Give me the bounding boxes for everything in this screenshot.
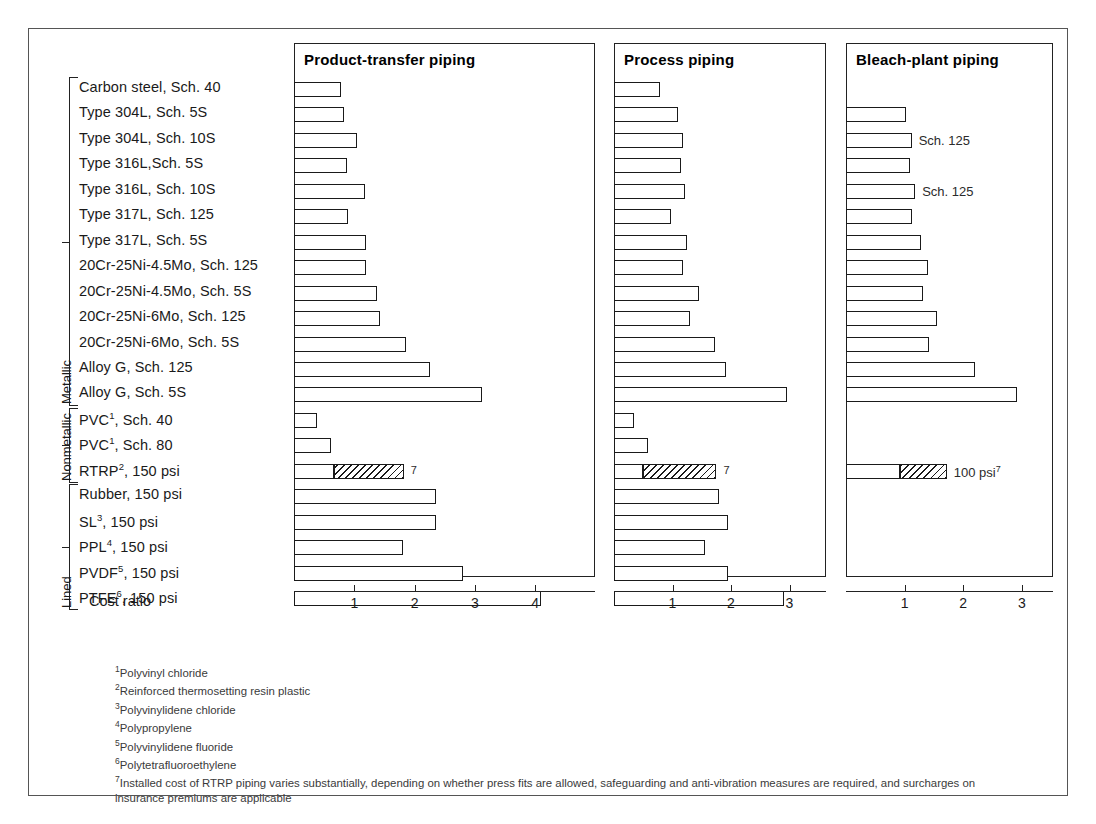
axis-tick	[415, 585, 416, 591]
axis-tick	[963, 585, 964, 591]
row-label: Alloy G, Sch. 125	[79, 359, 193, 375]
footnote: 1Polyvinyl chloride	[115, 662, 1015, 680]
bar	[846, 362, 975, 377]
bar	[294, 362, 430, 377]
row-label: Type 316L,Sch. 5S	[79, 155, 203, 171]
row-label: SL3, 150 psi	[79, 512, 158, 530]
row-label: Type 304L, Sch. 5S	[79, 104, 207, 120]
bar	[614, 133, 683, 148]
bar	[294, 158, 347, 173]
bar	[846, 337, 929, 352]
bar	[294, 260, 366, 275]
bar	[294, 209, 348, 224]
group-label-lined: Lined	[59, 576, 74, 608]
bar	[614, 235, 687, 250]
bar	[614, 260, 683, 275]
bar	[614, 591, 784, 606]
group-bracket-tick	[62, 242, 69, 243]
bar	[294, 82, 341, 97]
bar	[614, 337, 715, 352]
bar	[846, 311, 937, 326]
row-label: 20Cr-25Ni-4.5Mo, Sch. 125	[79, 257, 258, 273]
row-label: PVC1, Sch. 40	[79, 410, 173, 428]
bar	[614, 387, 787, 402]
bar	[614, 566, 728, 581]
bar	[294, 133, 357, 148]
row-label: PVDF5, 150 psi	[79, 563, 179, 581]
bar	[614, 362, 726, 377]
bar	[294, 184, 365, 199]
row-label: Alloy G, Sch. 5S	[79, 384, 186, 400]
footnote: 3Polyvinylidene chloride	[115, 699, 1015, 717]
axis-tick-label: 2	[959, 595, 967, 611]
bar	[846, 184, 915, 199]
bar	[614, 184, 685, 199]
panel-title-process: Process piping	[624, 51, 734, 68]
axis-tick	[535, 585, 536, 591]
row-label: Type 317L, Sch. 5S	[79, 232, 207, 248]
axis-tick-label: 1	[350, 595, 358, 611]
footnote: 6Polytetrafluoroethylene	[115, 754, 1015, 772]
row-label: 20Cr-25Ni-4.5Mo, Sch. 5S	[79, 283, 251, 299]
row-label: PPL4, 150 psi	[79, 537, 168, 555]
bar	[294, 540, 403, 555]
bar	[294, 566, 463, 581]
axis-tick-label: 1	[901, 595, 909, 611]
bar	[846, 286, 923, 301]
footnote: 4Polypropylene	[115, 717, 1015, 735]
row-label: PVC1, Sch. 80	[79, 435, 173, 453]
bar	[294, 387, 482, 402]
row-label: Type 317L, Sch. 125	[79, 206, 214, 222]
bar	[614, 515, 728, 530]
bar-rtrp-hatched	[900, 464, 947, 479]
axis-title: Cost ratio	[89, 593, 151, 609]
bar	[294, 337, 406, 352]
bar	[846, 387, 1017, 402]
group-bracket	[69, 77, 78, 406]
bar	[614, 286, 699, 301]
group-label-nonmetallic: Nonmetallic	[59, 413, 74, 481]
axis-tick	[905, 585, 906, 591]
axis-tick	[354, 585, 355, 591]
row-label: 20Cr-25Ni-6Mo, Sch. 125	[79, 308, 246, 324]
bar	[846, 235, 921, 250]
bar	[846, 107, 906, 122]
axis-tick-label: 2	[411, 595, 419, 611]
bar-note: 7	[723, 464, 729, 476]
bar	[614, 311, 690, 326]
bar-note: Sch. 125	[919, 133, 970, 148]
panel-title-bleach_plant: Bleach-plant piping	[856, 51, 999, 68]
bar	[294, 413, 317, 428]
bar-note: Sch. 125	[922, 184, 973, 199]
footnote: 2Reinforced thermosetting resin plastic	[115, 680, 1015, 698]
group-label-metallic: Metallic	[59, 360, 74, 404]
axis-tick	[1022, 585, 1023, 591]
bar-rtrp-plain	[614, 464, 643, 479]
row-label: Type 316L, Sch. 10S	[79, 181, 216, 197]
panel-bleach_plant	[846, 43, 1053, 577]
axis-tick	[790, 585, 791, 591]
bar	[614, 438, 648, 453]
bar-note: 7	[411, 464, 417, 476]
bar	[846, 158, 910, 173]
axis-tick-label: 3	[1018, 595, 1026, 611]
footnote: 5Polyvinylidene fluoride	[115, 736, 1015, 754]
panel-title-product_transfer: Product-transfer piping	[304, 51, 475, 68]
bar-rtrp-hatched	[643, 464, 716, 479]
footnotes: 1Polyvinyl chloride2Reinforced thermoset…	[115, 662, 1015, 805]
axis-tick	[673, 585, 674, 591]
row-label: Type 304L, Sch. 10S	[79, 130, 216, 146]
axis-tick	[731, 585, 732, 591]
bar	[614, 107, 678, 122]
axis-tick-label: 3	[786, 595, 794, 611]
axis-tick-label: 1	[669, 595, 677, 611]
bar	[294, 515, 436, 530]
figure-frame: Product-transfer pipingProcess pipingBle…	[28, 28, 1068, 796]
row-label: RTRP2, 150 psi	[79, 461, 180, 479]
group-bracket-tick	[62, 547, 69, 548]
bar	[294, 489, 436, 504]
axis-tick	[475, 585, 476, 591]
bar-rtrp-plain	[294, 464, 334, 479]
axis-tick-label: 3	[471, 595, 479, 611]
bar	[614, 82, 660, 97]
